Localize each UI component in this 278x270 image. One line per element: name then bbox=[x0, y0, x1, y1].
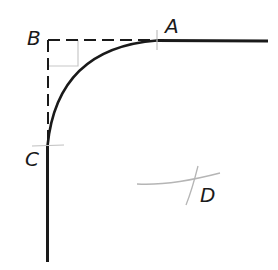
label-d: D bbox=[200, 183, 215, 207]
tangent-arc bbox=[48, 41, 158, 147]
right-angle-marker bbox=[48, 40, 78, 66]
label-b: B bbox=[27, 26, 41, 50]
tangent-arc-diagram: B A C D bbox=[0, 0, 278, 270]
tangent-tick-c bbox=[32, 145, 64, 146]
label-a: A bbox=[163, 14, 179, 38]
horizontal-line bbox=[156, 41, 268, 42]
construction-arc-vertical bbox=[186, 166, 198, 205]
label-c: C bbox=[25, 147, 39, 171]
